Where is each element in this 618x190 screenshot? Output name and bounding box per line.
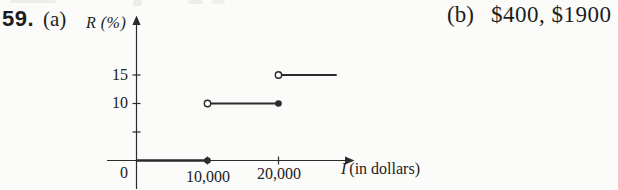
closed-endpoint-dot	[204, 157, 211, 164]
y-tick-label-10: 10	[102, 95, 128, 111]
x-tick-label-10000: 10,000	[177, 169, 239, 185]
closed-endpoint-dot	[275, 100, 282, 107]
y-axis-arrowhead	[132, 16, 140, 26]
open-endpoint-circle	[275, 72, 281, 78]
y-tick-label-15: 15	[102, 67, 128, 83]
x-tick-label-20000: 20,000	[248, 166, 310, 182]
x-axis-title: I(in dollars)	[341, 161, 420, 177]
open-endpoint-circle	[204, 100, 210, 106]
step-function-plot	[0, 0, 618, 190]
answer-key-snippet: 59. (a) R (%) (b) $400, $1900 15 10 0 10…	[0, 0, 618, 190]
x-tick-label-0: 0	[114, 165, 134, 181]
x-axis-unit: (in dollars)	[349, 160, 420, 177]
